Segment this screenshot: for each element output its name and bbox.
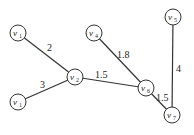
node-v6: v 6 (138, 80, 154, 96)
node-label: v (168, 12, 172, 22)
edge-weight-v4-v6: 1.8 (117, 49, 130, 60)
node-v4: v 4 (86, 25, 102, 41)
node-v7: v 7 (164, 107, 180, 123)
node-label: v (13, 97, 17, 107)
node-v1-top: v 1 (10, 25, 26, 41)
node-v1-bottom: v 1 (10, 94, 26, 110)
edge-weight-v2-v6: 1.5 (95, 69, 108, 80)
graph-diagram: 2 3 1.5 1.8 1.5 4 v 1 v 2 v 1 v 4 v (0, 0, 194, 135)
node-v5: v 5 (165, 9, 181, 25)
node-subscript: 5 (174, 17, 177, 23)
node-label: v (167, 110, 171, 120)
edge-v5-v7 (172, 17, 173, 115)
node-subscript: 4 (95, 33, 98, 39)
node-subscript: 7 (173, 115, 176, 121)
edge-v1b-v2 (18, 77, 75, 102)
edge-v1-v2 (18, 33, 75, 77)
node-v2: v 2 (67, 69, 83, 85)
edge-v2-v6 (75, 77, 146, 88)
nodes-layer: v 1 v 2 v 1 v 4 v 5 v 6 v (10, 9, 181, 123)
node-subscript: 1 (19, 102, 22, 108)
node-subscript: 6 (147, 88, 150, 94)
edge-weight-v1b-v2: 3 (40, 79, 45, 90)
node-subscript: 1 (19, 33, 22, 39)
node-label: v (89, 28, 93, 38)
edge-weight-v1-v2: 2 (47, 42, 52, 53)
node-label: v (70, 72, 74, 82)
edge-weight-v5-v7: 4 (176, 63, 181, 74)
node-label: v (141, 83, 145, 93)
edge-weight-v6-v7: 1.5 (156, 92, 169, 103)
node-subscript: 2 (76, 77, 79, 83)
node-label: v (13, 28, 17, 38)
